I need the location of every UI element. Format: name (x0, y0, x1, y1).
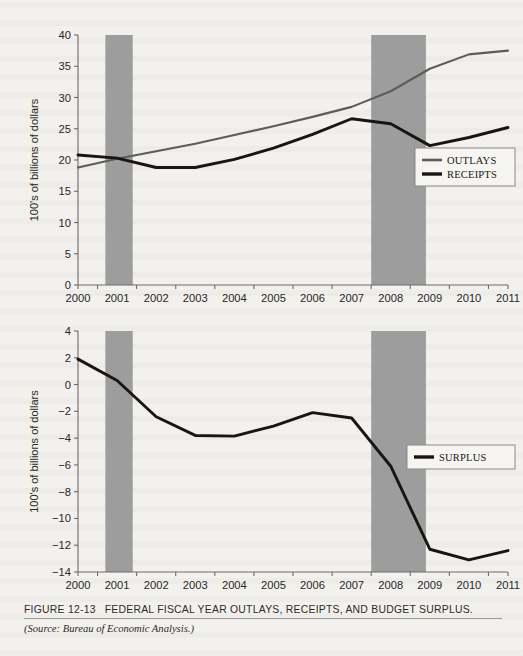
y-tick-label: −6 (58, 459, 71, 471)
x-tick-label: 2008 (378, 579, 403, 591)
legend-label-surplus: SURPLUS (439, 452, 487, 463)
y-axis-title: 100's of billions of dollars (28, 98, 40, 221)
x-tick-label: 2005 (261, 579, 286, 591)
figure-title: FEDERAL FISCAL YEAR OUTLAYS, RECEIPTS, A… (105, 604, 473, 615)
y-axis-title: 100's of billions of dollars (28, 390, 40, 513)
y-tick-label: 20 (59, 154, 71, 166)
y-tick-label: 25 (59, 123, 71, 135)
y-tick-label: −14 (52, 566, 71, 578)
y-tick-label: −8 (58, 486, 71, 498)
y-tick-label: −4 (58, 432, 71, 444)
y-tick-label: 0 (65, 379, 71, 391)
caption-title-line: FIGURE 12-13FEDERAL FISCAL YEAR OUTLAYS,… (24, 604, 502, 615)
x-tick-label: 2011 (496, 579, 520, 591)
caption-divider (24, 618, 502, 619)
figure-12-13: 0510152025303540100's of billions of dol… (0, 0, 523, 656)
y-tick-label: −10 (52, 512, 71, 524)
y-tick-label: 35 (59, 60, 71, 72)
figure-caption: FIGURE 12-13FEDERAL FISCAL YEAR OUTLAYS,… (24, 604, 502, 634)
chart-surplus: −14−12−10−8−6−4−2024100's of billions of… (0, 320, 523, 595)
x-tick-label: 2009 (417, 579, 442, 591)
y-tick-label: 15 (59, 185, 71, 197)
legend-label-receipts: RECEIPTS (447, 169, 497, 180)
x-tick-label: 2007 (339, 292, 364, 304)
chart-outlays-receipts: 0510152025303540100's of billions of dol… (0, 10, 523, 320)
x-tick-label: 2000 (66, 292, 91, 304)
y-tick-label: 0 (65, 279, 71, 291)
x-tick-label: 2004 (222, 292, 247, 304)
y-tick-label: 10 (59, 217, 71, 229)
y-tick-label: 30 (59, 92, 71, 104)
chart-surplus-svg: −14−12−10−8−6−4−2024100's of billions of… (0, 320, 523, 595)
x-tick-label: 2006 (300, 292, 325, 304)
y-tick-label: 5 (65, 248, 71, 260)
x-tick-label: 2001 (105, 292, 130, 304)
x-tick-label: 2006 (300, 579, 325, 591)
x-tick-label: 2008 (378, 292, 403, 304)
y-tick-label: 2 (65, 352, 71, 364)
x-tick-label: 2010 (456, 579, 481, 591)
recession-band-recession-2001 (105, 331, 132, 572)
figure-source: (Source: Bureau of Economic Analysis.) (24, 623, 502, 634)
x-tick-label: 2007 (339, 579, 364, 591)
chart-outlays-receipts-svg: 0510152025303540100's of billions of dol… (0, 10, 523, 320)
x-tick-label: 2002 (144, 579, 169, 591)
x-tick-label: 2004 (222, 579, 247, 591)
legend-label-outlays: OUTLAYS (447, 155, 496, 166)
x-tick-label: 2005 (261, 292, 286, 304)
x-tick-label: 2002 (144, 292, 169, 304)
x-tick-label: 2003 (183, 579, 208, 591)
y-tick-label: 40 (59, 29, 71, 41)
y-tick-label: −12 (52, 539, 71, 551)
x-tick-label: 2011 (496, 292, 520, 304)
x-tick-label: 2003 (183, 292, 208, 304)
x-tick-label: 2010 (456, 292, 481, 304)
x-tick-label: 2000 (66, 579, 91, 591)
figure-number: FIGURE 12-13 (24, 604, 96, 615)
x-tick-label: 2001 (105, 579, 130, 591)
x-tick-label: 2009 (417, 292, 442, 304)
y-tick-label: −2 (58, 405, 71, 417)
y-tick-label: 4 (65, 325, 71, 337)
